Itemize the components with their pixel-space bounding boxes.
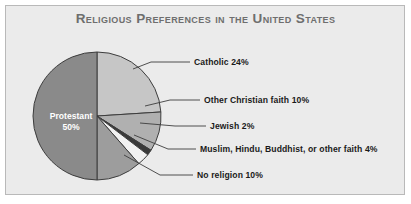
pie-label-muslim-hindu-buddhist-other: Muslim, Hindu, Buddhist, or other faith …	[200, 144, 378, 154]
pie-label-protestant-value: 50%	[62, 122, 79, 132]
pie-label-no-religion: No religion 10%	[197, 170, 263, 180]
leader-line-catholic	[133, 62, 190, 69]
pie-label-other-christian: Other Christian faith 10%	[204, 95, 309, 105]
pie-label-protestant-name: Protestant	[50, 111, 93, 121]
pie-label-protestant: Protestant 50%	[37, 111, 105, 133]
figure-container: Religious Preferences in the United Stat…	[0, 0, 411, 204]
pie-label-catholic: Catholic 24%	[194, 57, 249, 67]
pie-label-jewish: Jewish 2%	[210, 121, 254, 131]
